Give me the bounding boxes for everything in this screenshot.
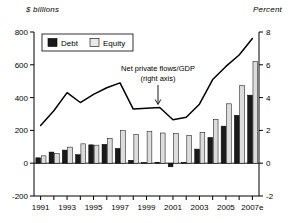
annotation-line-2: (right axis) xyxy=(140,74,176,83)
bar-equity-1999 xyxy=(147,132,152,163)
x-axis-labels: 199119931995199719992001200320052007e xyxy=(32,203,264,212)
bar-debt-2006 xyxy=(234,115,239,163)
bar-equity-1993 xyxy=(68,147,73,163)
bar-equity-1997 xyxy=(121,131,126,163)
annotation-arrow-icon xyxy=(155,85,161,105)
x-label-1991: 1991 xyxy=(32,203,50,212)
legend-label-equity: Equity xyxy=(103,39,125,48)
bar-equity-2006 xyxy=(240,85,245,163)
bar-equity-1996 xyxy=(107,138,112,163)
right-tick-0: 0 xyxy=(266,159,271,168)
right-tick-6: 6 xyxy=(266,61,271,70)
x-label-2001: 2001 xyxy=(164,203,182,212)
bar-debt-1994 xyxy=(76,155,81,164)
left-axis: 800 600 400 200 0 -200 xyxy=(12,28,34,201)
x-label-1993: 1993 xyxy=(58,203,76,212)
bar-equity-1992 xyxy=(54,153,59,163)
bar-debt-1998 xyxy=(129,160,134,163)
net-private-flows-annotation: Net private flows/GDP (right axis) xyxy=(121,64,195,105)
right-tick-neg2: -2 xyxy=(266,192,274,201)
right-tick-2: 2 xyxy=(266,126,271,135)
bar-equity-1998 xyxy=(134,134,139,163)
bar-equity-2001 xyxy=(174,134,179,164)
chart-container: $ billions Percent 800 600 400 200 0 -20… xyxy=(0,0,290,223)
legend-swatch-equity xyxy=(90,39,99,47)
right-axis-ticks xyxy=(259,32,263,196)
bar-equity-1995 xyxy=(94,145,99,163)
bar-debt-1995 xyxy=(89,145,94,163)
left-tick-0: 0 xyxy=(24,159,29,168)
bar-debt-1993 xyxy=(62,150,67,163)
x-label-1995: 1995 xyxy=(85,203,103,212)
right-tick-8: 8 xyxy=(266,28,271,37)
left-tick-800: 800 xyxy=(15,28,29,37)
bar-debt-2004 xyxy=(208,137,213,163)
x-label-2005: 2005 xyxy=(217,203,235,212)
bar-equity-2007e xyxy=(253,62,258,164)
bar-equity-2004 xyxy=(213,119,218,163)
left-tick-600: 600 xyxy=(15,61,29,70)
bar-debt-2000 xyxy=(155,162,160,163)
chart-plot-area: 800 600 400 200 0 -200 8 6 4 2 0 -2 xyxy=(0,0,290,223)
bar-debt-1999 xyxy=(142,163,147,164)
left-tick-400: 400 xyxy=(15,94,29,103)
legend-swatch-debt xyxy=(48,39,57,47)
left-tick-200: 200 xyxy=(15,126,29,135)
legend-label-debt: Debt xyxy=(61,39,79,48)
x-label-2007e: 2007e xyxy=(241,203,264,212)
bar-debt-1996 xyxy=(102,144,107,163)
bar-equity-2002 xyxy=(187,135,192,163)
bar-debt-2007e xyxy=(248,95,253,163)
bar-equity-1994 xyxy=(81,144,86,163)
right-axis: 8 6 4 2 0 -2 xyxy=(259,28,274,201)
annotation-line-1: Net private flows/GDP xyxy=(121,64,195,73)
chart-legend: Debt Equity xyxy=(42,34,133,51)
bar-debt-2002 xyxy=(181,162,186,163)
left-tick-neg200: -200 xyxy=(12,192,29,201)
bar-debt-2001 xyxy=(168,163,173,167)
bar-debt-2003 xyxy=(195,149,200,163)
bar-equity-1991 xyxy=(41,156,46,163)
bar-debt-1997 xyxy=(115,148,120,163)
x-label-2003: 2003 xyxy=(191,203,209,212)
bar-equity-2003 xyxy=(200,132,205,163)
bar-debt-1991 xyxy=(36,158,41,163)
x-axis: 199119931995199719992001200320052007e xyxy=(32,196,264,212)
bar-equity-2000 xyxy=(160,133,165,163)
x-label-1997: 1997 xyxy=(111,203,129,212)
left-axis-ticks xyxy=(30,32,34,196)
x-label-1999: 1999 xyxy=(138,203,156,212)
right-tick-4: 4 xyxy=(266,94,271,103)
x-axis-ticks xyxy=(41,196,253,200)
bar-equity-2005 xyxy=(227,104,232,163)
bar-debt-1992 xyxy=(49,152,54,163)
bar-debt-2005 xyxy=(221,126,226,163)
